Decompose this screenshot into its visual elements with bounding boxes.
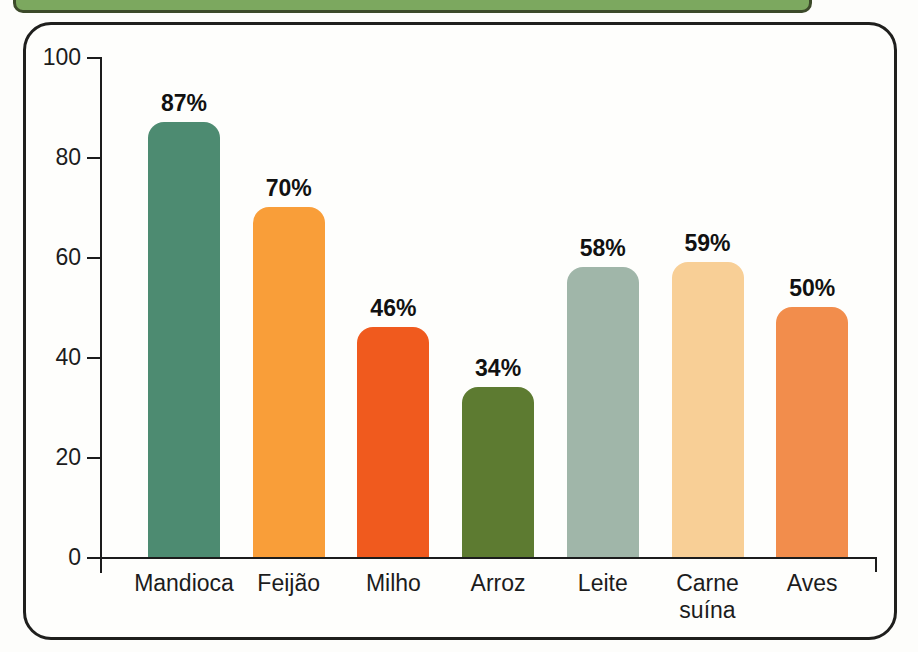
y-tick [87,357,100,359]
y-tick [87,557,100,559]
y-tick-label: 60 [29,246,81,269]
y-tick-label: 20 [29,446,81,469]
y-tick-label: 0 [29,546,81,569]
bar-milho [357,327,429,557]
bar-chart: 020406080100 87%70%46%34%58%59%50% Mandi… [26,25,894,637]
y-axis-line [100,57,102,573]
y-tick [87,157,100,159]
bar-value-label: 34% [443,355,553,381]
bar-value-label: 46% [338,295,448,321]
top-banner [13,0,812,13]
y-tick [87,57,100,59]
bar-aves [776,307,848,557]
bar-value-label: 70% [234,175,344,201]
x-category-label: Feijão [236,570,342,597]
bar-leite [567,267,639,557]
y-tick [87,457,100,459]
x-category-label: Carne suína [655,570,761,624]
y-tick-label: 40 [29,346,81,369]
x-axis-end-tick [875,557,877,572]
y-tick-label: 100 [29,46,81,69]
x-category-label: Mandioca [131,570,237,597]
bar-value-label: 59% [653,230,763,256]
bar-feijão [253,207,325,557]
x-category-label: Milho [340,570,446,597]
bar-value-label: 58% [548,235,658,261]
page: 020406080100 87%70%46%34%58%59%50% Mandi… [0,0,918,652]
y-tick [87,257,100,259]
y-tick-label: 80 [29,146,81,169]
chart-frame: 020406080100 87%70%46%34%58%59%50% Mandi… [23,22,897,640]
bar-mandioca [148,122,220,557]
bar-value-label: 87% [129,90,239,116]
x-category-label: Leite [550,570,656,597]
x-category-label: Aves [759,570,865,597]
bar-carne-suína [672,262,744,557]
bar-arroz [462,387,534,557]
x-category-label: Arroz [445,570,551,597]
x-axis-line [100,557,877,559]
bar-value-label: 50% [757,275,867,301]
